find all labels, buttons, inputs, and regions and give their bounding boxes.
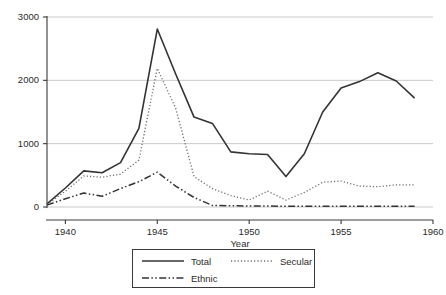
series-line-ethnic [47,172,415,206]
y-tick-label-2000: 2000 [0,74,39,85]
y-tick-label-1000: 1000 [0,138,39,149]
axis-lines [46,16,433,220]
legend-label-secular: Secular [280,256,312,267]
legend-entry-total: Total [141,254,211,268]
data-series-group [47,29,415,206]
legend-swatch-ethnic [141,272,185,284]
axis-ticks [43,17,433,224]
y-tick-label-3000: 3000 [0,11,39,22]
legend-label-ethnic: Ethnic [191,273,217,284]
legend-swatch-total [141,255,185,267]
legend-entry-secular: Secular [230,254,312,268]
legend-entry-ethnic: Ethnic [141,271,217,285]
x-tick-label-1950: 1950 [224,226,274,237]
gridlines [47,17,433,207]
chart-figure: 0100020003000 19401945195019551960 Year … [0,0,446,295]
x-axis-title: Year [47,238,433,249]
series-line-secular [47,68,415,204]
series-line-total [47,29,415,204]
y-tick-label-0: 0 [0,201,39,212]
x-tick-label-1960: 1960 [408,226,446,237]
x-tick-label-1940: 1940 [40,226,90,237]
chart-legend: Total Secular Ethnic [132,249,315,288]
legend-label-total: Total [191,256,211,267]
x-tick-label-1955: 1955 [316,226,366,237]
legend-swatch-secular [230,255,274,267]
x-tick-label-1945: 1945 [132,226,182,237]
